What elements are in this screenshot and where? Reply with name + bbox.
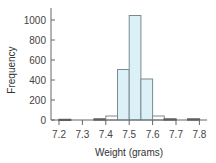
y-tick-label: 400: [29, 75, 46, 86]
y-tick-label: 800: [29, 35, 46, 46]
histogram-bar: [129, 16, 141, 121]
y-axis-ticks: 02004006008001000: [24, 15, 55, 126]
histogram-bar: [153, 116, 165, 120]
x-axis-title: Weight (grams): [95, 147, 163, 158]
histogram-bar: [141, 79, 153, 120]
x-axis-ticks: 7.27.37.47.57.67.77.8: [52, 120, 207, 140]
histogram-bar: [118, 70, 130, 121]
y-tick-label: 0: [40, 115, 46, 126]
y-axis-title: Frequency: [6, 46, 17, 93]
y-tick-label: 200: [29, 95, 46, 106]
histogram-bars: [59, 16, 199, 121]
y-tick-label: 1000: [24, 15, 47, 26]
x-tick-label: 7.7: [169, 129, 183, 140]
y-tick-label: 600: [29, 55, 46, 66]
histogram-chart: 02004006008001000 7.27.37.47.57.67.77.8 …: [0, 0, 216, 163]
x-tick-label: 7.4: [99, 129, 113, 140]
x-tick-label: 7.2: [52, 129, 66, 140]
x-tick-label: 7.6: [146, 129, 160, 140]
x-tick-label: 7.3: [75, 129, 89, 140]
histogram-bar: [106, 116, 118, 120]
x-tick-label: 7.8: [192, 129, 206, 140]
x-tick-label: 7.5: [122, 129, 136, 140]
